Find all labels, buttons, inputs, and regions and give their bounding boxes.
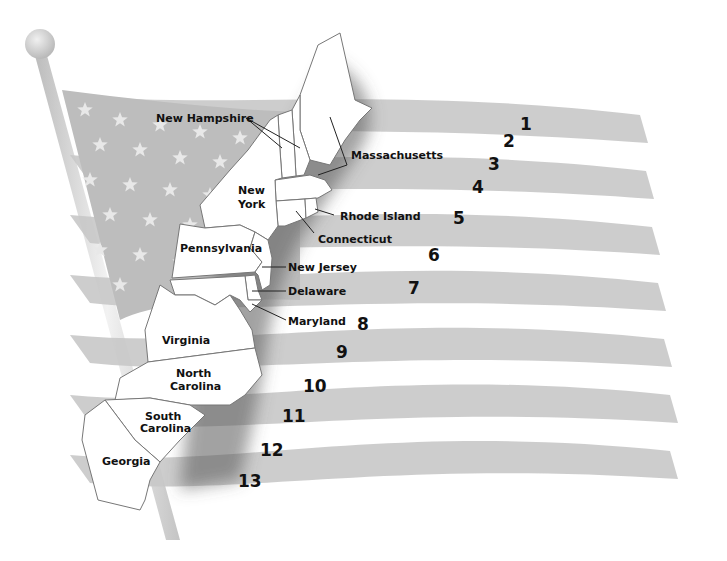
label-new-jersey: New Jersey: [288, 261, 357, 274]
stripe-number-5: 5: [453, 208, 465, 228]
stripe-number-1: 1: [520, 114, 532, 134]
stripe-number-11: 11: [282, 406, 306, 426]
label-rhode-island: Rhode Island: [340, 210, 421, 223]
label-virginia: Virginia: [162, 334, 210, 347]
map-canvas: New Hampshire Massachusetts New York Rho…: [0, 0, 727, 561]
stripe-number-2: 2: [503, 131, 515, 151]
stripe-number-10: 10: [303, 376, 327, 396]
stripe-number-8: 8: [357, 314, 369, 334]
stripe-number-7: 7: [408, 278, 420, 298]
label-connecticut: Connecticut: [318, 233, 392, 246]
label-georgia: Georgia: [102, 455, 151, 468]
stripe-number-13: 13: [238, 471, 262, 491]
label-massachusetts: Massachusetts: [351, 149, 444, 162]
label-delaware: Delaware: [288, 285, 346, 298]
label-maryland: Maryland: [288, 315, 346, 328]
label-south-carolina-line2: Carolina: [140, 422, 191, 435]
stripe-number-12: 12: [260, 440, 284, 460]
label-new-york-line2: York: [237, 198, 266, 211]
label-north-carolina-line2: Carolina: [170, 380, 221, 393]
label-new-hampshire: New Hampshire: [156, 112, 254, 125]
stripe-number-6: 6: [428, 245, 440, 265]
stripe-number-3: 3: [488, 154, 500, 174]
label-pennsylvania: Pennsylvania: [180, 242, 262, 255]
stripe-number-9: 9: [336, 342, 348, 362]
pole-finial: [25, 29, 55, 59]
label-north-carolina-line1: North: [176, 367, 211, 380]
colonies-flag-map: New Hampshire Massachusetts New York Rho…: [0, 0, 727, 561]
stripe-number-4: 4: [472, 177, 484, 197]
label-new-york-line1: New: [238, 184, 265, 197]
